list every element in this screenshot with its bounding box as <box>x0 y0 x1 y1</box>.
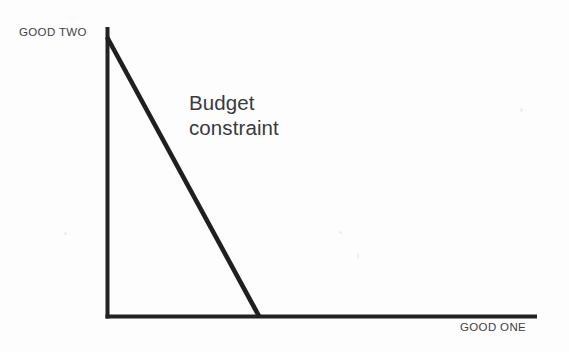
x-axis-label: GOOD ONE <box>460 322 526 334</box>
figure-svg <box>0 0 569 352</box>
budget-constraint-figure: GOOD TWO GOOD ONE Budget constraint <box>0 0 569 352</box>
y-axis-label: GOOD TWO <box>19 27 87 39</box>
budget-constraint-line <box>107 37 260 317</box>
budget-constraint-annotation: Budget constraint <box>189 90 279 140</box>
